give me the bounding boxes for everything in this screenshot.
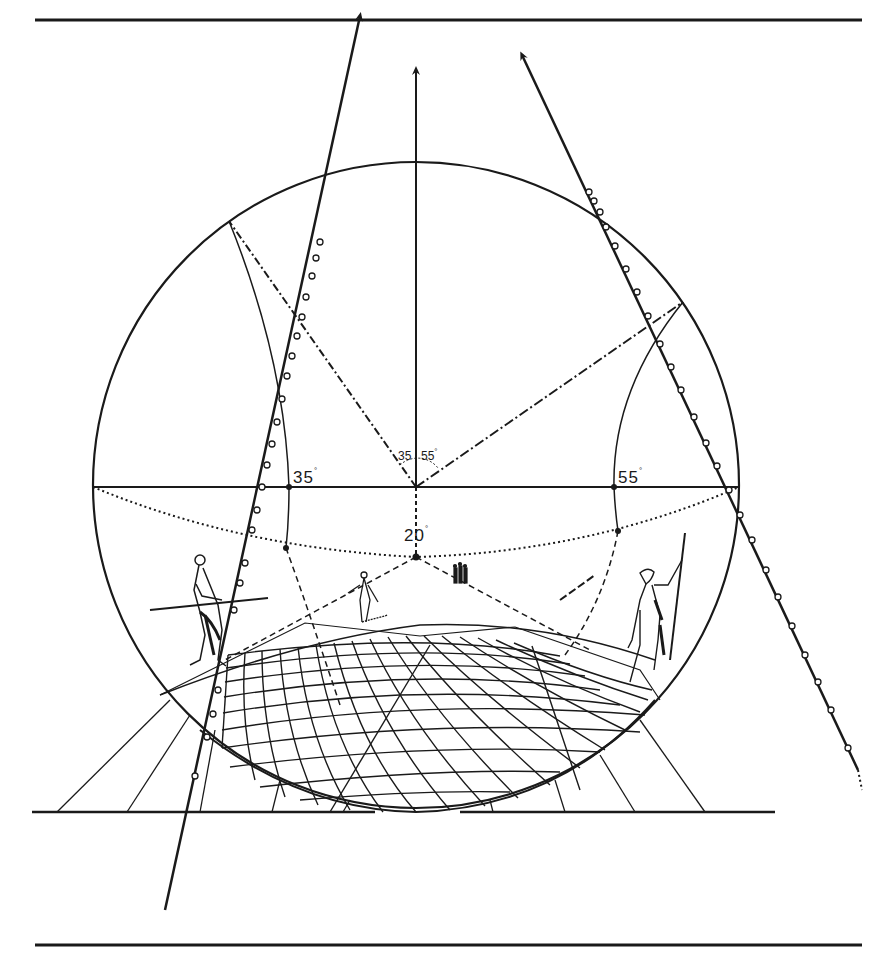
ray-55 — [416, 302, 683, 487]
left-ray-arrow — [165, 16, 360, 910]
vanish-left — [225, 557, 416, 660]
label-center-55: 55° — [421, 449, 438, 463]
dashed-short — [560, 575, 595, 600]
tightrope-walker-figure — [150, 555, 268, 666]
point-55 — [611, 484, 617, 490]
standing-man-with-staff — [628, 533, 685, 682]
meridian-right — [614, 302, 683, 531]
point-35 — [286, 484, 292, 490]
label-55: 55° — [618, 468, 643, 488]
label-35: 35° — [293, 468, 318, 488]
perspective-diagram — [0, 0, 892, 960]
ground-right-slope — [515, 627, 660, 700]
label-center-35: 35 — [398, 449, 411, 463]
dashed-curve-right — [565, 531, 618, 655]
group-of-three-figures — [454, 563, 468, 584]
walking-figure-center — [348, 572, 388, 622]
curved-ground-grid — [200, 636, 655, 812]
ground-projection-lines — [57, 700, 705, 812]
ray-35 — [229, 221, 416, 487]
label-20: 20° — [404, 526, 429, 546]
right-ray-arrow — [522, 55, 862, 790]
